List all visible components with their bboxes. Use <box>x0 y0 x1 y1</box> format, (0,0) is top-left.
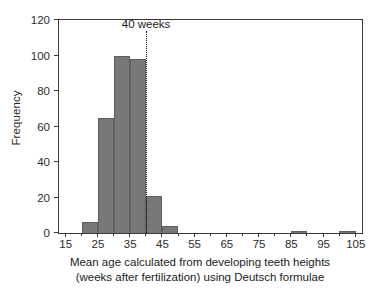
x-minor-tick-20 <box>81 233 82 236</box>
histogram-bar <box>339 231 355 233</box>
x-tick-label-35: 35 <box>124 238 137 250</box>
y-tick-label-40: 40 <box>37 156 50 168</box>
x-tick-25: 25 <box>97 233 98 237</box>
reference-line-40-weeks <box>146 31 147 233</box>
x-tick-105: 105 <box>355 233 356 237</box>
histogram-bar <box>130 59 146 233</box>
reference-line-label: 40 weeks <box>122 18 171 30</box>
y-tick-label-80: 80 <box>37 85 50 97</box>
x-minor-tick-80 <box>274 233 275 236</box>
x-tick-label-105: 105 <box>346 238 365 250</box>
y-tick-label-20: 20 <box>37 192 50 204</box>
x-minor-tick-60 <box>210 233 211 236</box>
x-tick-label-15: 15 <box>59 238 72 250</box>
histogram-bars <box>59 20 362 233</box>
x-minor-tick-70 <box>242 233 243 236</box>
histogram-figure: Frequency 020406080100120 15253545556575… <box>0 0 380 291</box>
y-tick-label-100: 100 <box>31 50 50 62</box>
x-tick-75: 75 <box>258 233 259 237</box>
y-axis-title-text: Frequency <box>10 90 22 145</box>
y-tick-label-0: 0 <box>44 227 50 239</box>
x-minor-tick-30 <box>113 233 114 236</box>
x-axis-title: Mean age calculated from developing teet… <box>40 255 360 284</box>
x-minor-tick-90 <box>306 233 307 236</box>
x-tick-55: 55 <box>194 233 195 237</box>
y-axis-title: Frequency <box>5 0 27 235</box>
plot-area: 020406080100120 152535455565758595105 40… <box>58 19 363 234</box>
x-tick-95: 95 <box>323 233 324 237</box>
x-tick-85: 85 <box>290 233 291 237</box>
y-tick-label-120: 120 <box>31 14 50 26</box>
x-tick-45: 45 <box>161 233 162 237</box>
x-tick-label-25: 25 <box>92 238 105 250</box>
x-tick-label-75: 75 <box>253 238 266 250</box>
x-tick-label-55: 55 <box>188 238 201 250</box>
x-minor-tick-100 <box>339 233 340 236</box>
x-tick-label-85: 85 <box>285 238 298 250</box>
histogram-bar <box>82 222 98 233</box>
histogram-bar <box>98 118 114 233</box>
histogram-bar <box>146 196 162 233</box>
x-minor-tick-40 <box>145 233 146 236</box>
x-tick-label-65: 65 <box>220 238 233 250</box>
x-axis-title-line-1: Mean age calculated from developing teet… <box>40 255 360 270</box>
x-tick-35: 35 <box>129 233 130 237</box>
histogram-bar <box>291 231 307 233</box>
x-tick-label-95: 95 <box>317 238 330 250</box>
histogram-bar <box>162 226 178 233</box>
x-tick-65: 65 <box>226 233 227 237</box>
x-minor-tick-50 <box>178 233 179 236</box>
histogram-bar <box>114 56 130 234</box>
y-tick-label-60: 60 <box>37 121 50 133</box>
x-tick-label-45: 45 <box>156 238 169 250</box>
x-tick-15: 15 <box>65 233 66 237</box>
x-axis-title-line-2: (weeks after fertilization) using Deutsc… <box>40 270 360 285</box>
